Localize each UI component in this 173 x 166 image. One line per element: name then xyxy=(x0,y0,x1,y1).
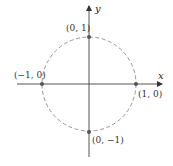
point-bottom xyxy=(87,130,91,134)
unit-circle-diagram: x y (0, 1) (−1, 0) (1, 0) (0, −1) xyxy=(0,0,173,166)
y-axis-label: y xyxy=(94,3,101,14)
point-top xyxy=(87,35,91,39)
point-label-top: (0, 1) xyxy=(66,23,90,33)
point-right xyxy=(134,82,138,86)
point-label-left: (−1, 0) xyxy=(14,70,46,80)
x-axis-label: x xyxy=(158,70,164,81)
point-label-right: (1, 0) xyxy=(138,89,162,99)
point-label-bottom: (0, −1) xyxy=(92,135,124,145)
point-left xyxy=(40,82,44,86)
